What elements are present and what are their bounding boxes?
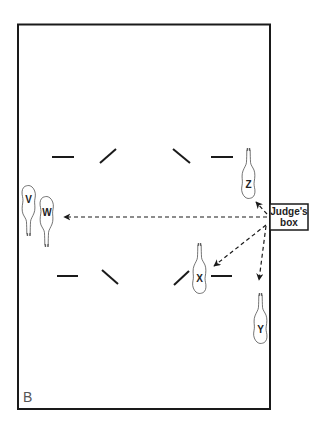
horse-w-label: W xyxy=(42,207,52,218)
marker-backslash xyxy=(173,149,190,163)
horse-v: V xyxy=(22,186,35,236)
sight-lines xyxy=(64,202,267,280)
marker-slash xyxy=(100,149,116,163)
arena-corner-label: B xyxy=(23,389,32,405)
horse-w: W xyxy=(40,197,53,247)
horse-x: X xyxy=(193,243,206,293)
marker-backslash xyxy=(102,270,118,284)
marker-slash xyxy=(174,271,189,285)
arena-diagram: Judge's box V W Z X Y B xyxy=(0,0,327,424)
judges-box: Judge's box xyxy=(270,204,308,230)
horse-y: Y xyxy=(254,293,267,343)
horse-y-label: Y xyxy=(257,324,264,335)
arrow-to-y xyxy=(259,226,266,280)
horse-v-label: V xyxy=(25,194,32,205)
horse-z-label: Z xyxy=(245,179,251,190)
arrow-to-x xyxy=(214,225,266,266)
judges-box-label-line2: box xyxy=(280,217,298,228)
judges-box-label-line1: Judge's xyxy=(270,206,308,217)
top-markers xyxy=(52,149,233,163)
horse-z: Z xyxy=(242,148,255,198)
horse-x-label: X xyxy=(196,273,203,284)
arrow-to-z xyxy=(256,202,267,214)
